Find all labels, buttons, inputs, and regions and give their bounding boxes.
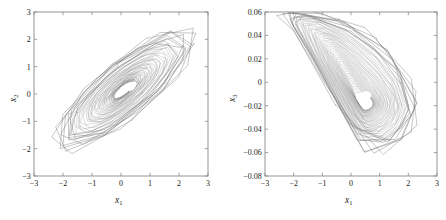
y-tick-label: 0 [27,90,31,99]
x-tick-label: −1 [88,179,97,188]
y-tick-label: −2 [22,145,31,154]
x-axis-label-right: x1 [345,196,353,206]
y-axis-label-left: x2 [9,94,19,102]
y-tick-label: 0.02 [248,55,262,64]
x-tick-label: 3 [206,179,210,188]
y-tick-label: 0.04 [248,31,262,40]
x-tick-label: 3 [435,179,439,188]
trajectory-loop [63,32,190,146]
x-axis-label-left: x1 [115,196,123,206]
y-tick-label: −0.02 [243,102,262,111]
figure-container: −3−2−10123−3−2−10123 x2 x1 −3−2−10123−0.… [0,0,446,220]
x-tick-label: 0 [349,179,353,188]
y-tick-label: −0.04 [243,125,262,134]
y-tick-label: −3 [22,172,31,181]
y-tick-label: 0.06 [248,8,262,17]
x-tick-label: −1 [318,179,327,188]
plot-frame [34,12,208,176]
y-tick-label: 2 [27,35,31,44]
panel-x1-x2: −3−2−10123−3−2−10123 x2 x1 [0,0,223,220]
y-tick-label: −1 [22,117,31,126]
y-tick-label: −0.06 [243,148,262,157]
plot-area-x1-x2: −3−2−10123−3−2−10123 [0,0,223,220]
x-tick-label: −3 [30,179,39,188]
attractor-traces [277,10,417,154]
x-tick-label: −3 [261,179,270,188]
trajectory-loop [60,31,194,149]
x-tick-label: −2 [59,179,68,188]
y-tick-label: 1 [27,63,31,72]
y-axis-label-right: x3 [228,94,238,102]
trajectory-loop [72,43,178,136]
y-tick-label: 0 [258,78,262,87]
trajectory-loop [290,13,417,153]
x-tick-label: 1 [148,179,152,188]
x-tick-label: 2 [177,179,181,188]
plot-area-x1-x3: −3−2−10123−0.08−0.06−0.04−0.0200.020.040… [223,0,446,220]
x-tick-label: 0 [119,179,123,188]
x-tick-label: −2 [289,179,298,188]
x-tick-label: 1 [378,179,382,188]
x-tick-label: 2 [406,179,410,188]
y-tick-label: −0.08 [243,172,262,181]
y-tick-label: 3 [27,8,31,17]
panel-x1-x3: −3−2−10123−0.08−0.06−0.04−0.0200.020.040… [223,0,446,220]
trajectory-loop [70,41,178,135]
attractor-traces [52,28,196,154]
